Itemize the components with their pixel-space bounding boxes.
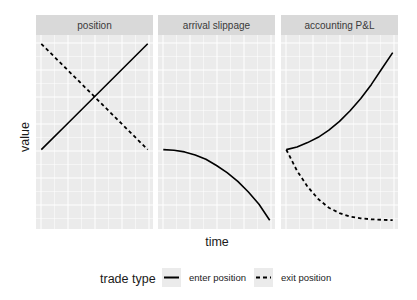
legend-label-exit-position: exit position [281, 272, 331, 283]
facet-strip-title: accounting P&L [304, 20, 374, 31]
facet-panel: arrival slippage [158, 15, 275, 229]
facet-strip-title: position [77, 20, 111, 31]
legend-key-exit-position [254, 268, 273, 287]
y-axis-title: value [18, 122, 32, 152]
legend-key-enter-position [162, 268, 181, 287]
x-axis-title: time [205, 235, 229, 249]
legend-label-enter-position: enter position [189, 272, 246, 283]
faceted-line-chart: positionarrival slippageaccounting P&L v… [0, 0, 417, 300]
facet-panel: accounting P&L [281, 15, 398, 229]
legend: trade type enter position exit position [100, 268, 331, 287]
facet-strip-title: arrival slippage [183, 20, 251, 31]
legend-title: trade type [100, 272, 156, 286]
facet-panel: position [36, 15, 153, 229]
